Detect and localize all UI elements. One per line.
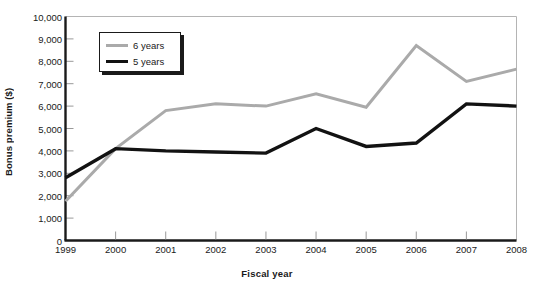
x-axis-title: Fiscal year [0, 268, 534, 279]
line-chart: Bonus premium ($) 01,0002,0003,0004,0005… [0, 0, 534, 290]
x-tick-label: 2001 [155, 244, 176, 255]
x-tick-label: 2007 [456, 244, 477, 255]
legend-swatch-6-years-icon [106, 44, 128, 47]
x-tick-label: 2002 [205, 244, 226, 255]
x-tick-label: 2004 [305, 244, 326, 255]
x-tick-label: 2005 [356, 244, 377, 255]
x-tick-label: 2003 [255, 244, 276, 255]
legend-item-6-years: 6 years [106, 37, 164, 53]
x-axis-ticks [116, 232, 467, 240]
x-tick-label: 1999 [55, 244, 76, 255]
legend-label-5-years: 5 years [133, 56, 164, 67]
legend-item-5-years: 5 years [106, 53, 164, 69]
legend-label-6-years: 6 years [133, 40, 164, 51]
x-tick-label: 2008 [506, 244, 527, 255]
x-tick-label: 2000 [105, 244, 126, 255]
x-tick-label: 2006 [406, 244, 427, 255]
chart-legend: 6 years 5 years [99, 32, 181, 72]
series-line-5-years [66, 104, 517, 178]
legend-swatch-5-years-icon [106, 60, 128, 63]
